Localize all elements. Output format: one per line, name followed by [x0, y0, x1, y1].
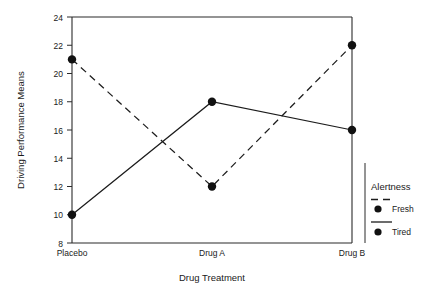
- series-tired: [68, 98, 356, 219]
- line-chart-figure: 24 22 20 18 16 14 12 10 8 Driving Perfor…: [0, 0, 432, 294]
- series-fresh: [68, 41, 356, 191]
- legend-label-fresh: Fresh: [392, 204, 414, 214]
- point-tired-placebo: [68, 211, 76, 219]
- legend-marker-tired-icon: [374, 228, 381, 235]
- legend-label-tired: Tired: [392, 227, 411, 237]
- point-tired-drug-a: [208, 98, 216, 106]
- y-tick-label-12: 12: [54, 182, 64, 192]
- y-axis-ticks: [67, 17, 72, 243]
- legend-title: Alertness: [371, 181, 411, 192]
- legend-entry-tired[interactable]: Tired: [371, 222, 411, 237]
- x-label-drug-b: Drug B: [339, 248, 366, 258]
- point-fresh-drug-a: [208, 182, 216, 190]
- y-tick-label-24: 24: [54, 13, 64, 23]
- y-tick-label-14: 14: [54, 154, 64, 164]
- x-label-placebo: Placebo: [57, 248, 88, 258]
- legend: Alertness Fresh Tired: [365, 163, 414, 243]
- point-fresh-placebo: [68, 55, 76, 63]
- y-axis-tick-labels: 24 22 20 18 16 14 12 10 8: [54, 13, 64, 249]
- legend-entry-fresh[interactable]: Fresh: [371, 200, 414, 215]
- x-label-drug-a: Drug A: [199, 248, 225, 258]
- x-axis-category-labels: Placebo Drug A Drug B: [57, 248, 366, 258]
- series-tired-line: [72, 102, 352, 215]
- legend-marker-fresh-icon: [374, 205, 381, 212]
- y-axis-title: Driving Performance Means: [15, 71, 26, 189]
- y-tick-label-22: 22: [54, 41, 64, 51]
- y-tick-label-10: 10: [54, 210, 64, 220]
- y-tick-label-18: 18: [54, 97, 64, 107]
- y-tick-label-20: 20: [54, 69, 64, 79]
- y-tick-label-16: 16: [54, 126, 64, 136]
- y-tick-label-8: 8: [58, 239, 63, 249]
- series-fresh-line: [72, 45, 352, 186]
- point-fresh-drug-b: [348, 41, 356, 49]
- point-tired-drug-b: [348, 126, 356, 134]
- chart-canvas: 24 22 20 18 16 14 12 10 8 Driving Perfor…: [0, 0, 432, 294]
- x-axis-title: Drug Treatment: [179, 272, 245, 283]
- plot-frame: [72, 17, 352, 243]
